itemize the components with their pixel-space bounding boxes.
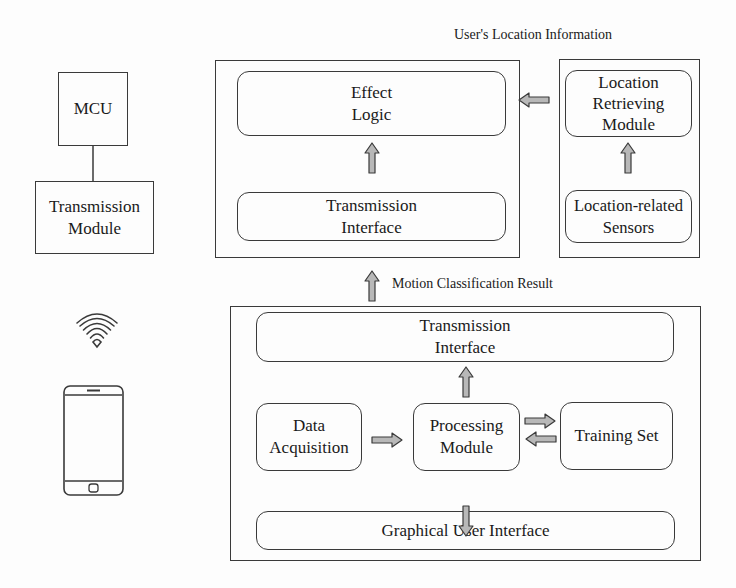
system-architecture-diagram: MCU Transmission Module Effect Logic Tra… xyxy=(0,0,736,588)
arrow-right-to-training-set-icon xyxy=(525,414,555,428)
arrow-up-to-phone-transmission-icon xyxy=(459,367,473,397)
arrow-up-to-location-retrieving-icon xyxy=(621,143,635,173)
arrow-left-to-processing-icon xyxy=(526,432,556,446)
arrow-up-to-effect-logic-icon xyxy=(365,143,379,173)
arrow-down-to-gui-icon xyxy=(459,506,473,536)
arrows-layer xyxy=(0,0,736,588)
arrow-left-to-effect-unit-icon xyxy=(519,93,549,107)
arrow-right-to-processing-icon xyxy=(372,433,402,447)
arrow-up-motion-result-icon xyxy=(365,271,379,301)
